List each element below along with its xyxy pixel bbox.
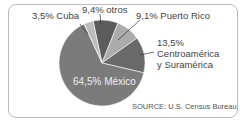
label-centro-line1: Centroamérica xyxy=(157,48,219,59)
label-otros: 9,4% otros xyxy=(82,4,127,15)
source-note: SOURCE: U.S. Census Bureau xyxy=(132,102,237,111)
label-mexico: 64,5% México xyxy=(73,76,136,87)
label-puerto-rico: 9,1% Puerto Rico xyxy=(136,10,210,21)
label-cuba: 3,5% Cuba xyxy=(32,10,79,21)
label-centro-line2: y Suramérica xyxy=(157,59,213,70)
label-centro-pct: 13,5% xyxy=(157,37,184,48)
